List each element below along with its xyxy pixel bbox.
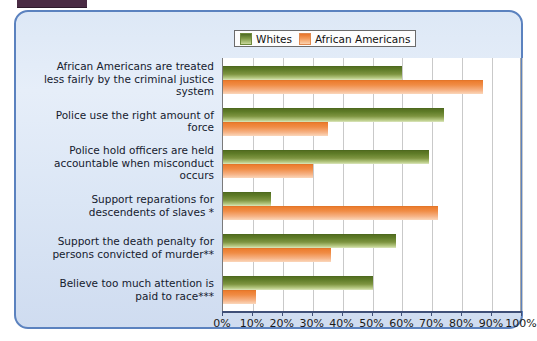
bar-african-americans — [223, 248, 331, 262]
x-axis-tick — [521, 311, 522, 316]
x-axis-tick — [282, 311, 283, 316]
bar-african-americans — [223, 80, 483, 94]
orange-swatch-icon — [299, 33, 311, 45]
x-axis-tick-label: 70% — [419, 317, 443, 330]
category-label-column: African Americans are treated less fairl… — [34, 58, 218, 311]
legend-item-african-americans: African Americans — [299, 33, 410, 45]
category-label: Police hold officers are held accountabl… — [34, 144, 214, 182]
x-axis-tick-label: 10% — [240, 317, 264, 330]
x-axis-tick — [342, 311, 343, 316]
bar-african-americans — [223, 122, 328, 136]
x-axis-tick — [491, 311, 492, 316]
green-swatch-icon — [240, 33, 252, 45]
x-axis-tick — [222, 311, 223, 316]
x-axis-tick-label: 20% — [270, 317, 294, 330]
x-axis-tick-label: 90% — [479, 317, 503, 330]
x-axis-tick — [401, 311, 402, 316]
bar-african-americans — [223, 206, 438, 220]
category-label: Believe too much attention is paid to ra… — [34, 277, 214, 302]
gridline — [522, 58, 523, 311]
category-label: Police use the right amount of force — [34, 109, 214, 134]
bar-whites — [223, 66, 402, 80]
x-axis-tick — [372, 311, 373, 316]
x-axis-tick — [461, 311, 462, 316]
bar-whites — [223, 108, 444, 122]
x-axis-tick-label: 0% — [213, 317, 230, 330]
chart-legend: Whites African Americans — [234, 30, 416, 47]
chart-panel: Whites African Americans African America… — [14, 10, 523, 329]
x-axis-tick-label: 40% — [329, 317, 353, 330]
chart-screenshot: Whites African Americans African America… — [0, 0, 537, 341]
x-axis-tick-label: 80% — [449, 317, 473, 330]
bar-african-americans — [223, 164, 313, 178]
bar-whites — [223, 276, 373, 290]
bar-group — [223, 58, 522, 311]
x-axis-tick-label: 100% — [505, 317, 536, 330]
bar-whites — [223, 192, 271, 206]
x-axis-tick — [252, 311, 253, 316]
bar-whites — [223, 234, 396, 248]
x-axis-tick-label: 50% — [359, 317, 383, 330]
page-heading-rule — [17, 0, 87, 8]
x-axis-tick — [312, 311, 313, 316]
x-axis-tick-label: 60% — [389, 317, 413, 330]
legend-item-whites: Whites — [240, 33, 292, 45]
x-axis-tick — [431, 311, 432, 316]
bar-whites — [223, 150, 429, 164]
category-label: Support the death penalty for persons co… — [34, 235, 214, 260]
category-label: Support reparations for descendents of s… — [34, 193, 214, 218]
bar-african-americans — [223, 290, 256, 304]
legend-label-african-americans: African Americans — [315, 33, 410, 45]
category-label: African Americans are treated less fairl… — [34, 60, 214, 98]
x-axis-tick-label: 30% — [299, 317, 323, 330]
legend-label-whites: Whites — [256, 33, 292, 45]
